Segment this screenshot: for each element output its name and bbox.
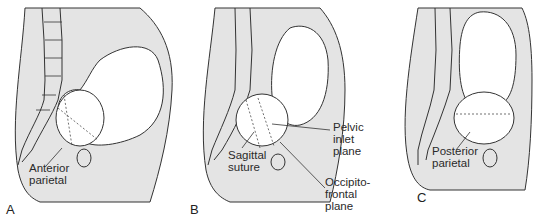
label-anterior-parietal: Anterior parietal (29, 162, 69, 186)
panel-letter-a: A (6, 202, 15, 217)
fetal-position-illustration-a (0, 0, 180, 219)
label-posterior-parietal: Posterior parietal (432, 145, 478, 169)
label-sagittal-suture: Sagittal suture (228, 149, 266, 173)
panel-c: Posterior parietal C (360, 0, 536, 219)
panel-letter-b: B (190, 202, 199, 217)
panel-a: Anterior parietal A (0, 0, 180, 219)
fetal-position-illustration-c (360, 0, 536, 219)
panel-b: Sagittal suture Pelvic inlet plane Occip… (180, 0, 360, 219)
panel-letter-c: C (417, 190, 426, 205)
